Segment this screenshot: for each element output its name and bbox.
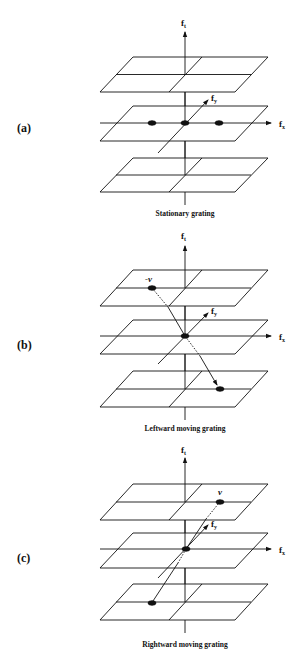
fy-label: fy (211, 519, 217, 530)
fx-label: fx (279, 119, 285, 130)
caption-c: Rightward moving grating (142, 640, 228, 649)
caption-a: Stationary grating (156, 209, 215, 218)
spectral-dot (181, 121, 189, 125)
bottom-plane (100, 371, 268, 407)
ft-label: ft (181, 445, 186, 456)
top-plane (100, 270, 268, 306)
spectral-dot (181, 334, 189, 338)
panel-c (100, 458, 271, 633)
panel-label-b: (b) (17, 338, 32, 352)
ft-label: ft (181, 231, 186, 242)
spectral-dot (148, 286, 156, 290)
ft-label: ft (181, 18, 186, 29)
spectral-dot (216, 387, 224, 391)
panel-label-a: (a) (17, 121, 31, 135)
fx-label: fx (279, 332, 285, 343)
panel-b (100, 246, 271, 420)
fx-label: fx (279, 545, 285, 556)
panel-a (100, 32, 271, 205)
spectral-dot (182, 547, 190, 551)
spectral-dot (215, 121, 223, 125)
caption-b: Leftward moving grating (145, 424, 226, 433)
spectral-dot (148, 601, 156, 605)
spectral-dot (148, 121, 156, 125)
spectral-dot (216, 500, 224, 504)
fy-label: fy (211, 93, 217, 104)
top-plane (100, 484, 268, 520)
velocity-label: -v (145, 274, 153, 284)
bottom-plane (100, 584, 268, 620)
grating-spectrum-figure: (a) ft fx fy Stationary grating (0, 0, 302, 660)
fy-label: fy (211, 306, 217, 317)
top-plane (100, 57, 268, 92)
panel-label-c: (c) (17, 551, 30, 565)
bottom-plane (100, 158, 268, 192)
